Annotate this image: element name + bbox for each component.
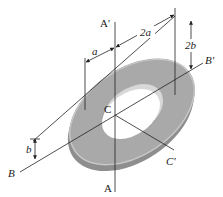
label-a-prime: A' xyxy=(100,17,110,29)
dim-2a-label: 2a xyxy=(140,26,152,38)
dim-a-line xyxy=(86,48,114,62)
label-c-prime: C' xyxy=(166,155,176,167)
dim-2b-label: 2b xyxy=(185,39,197,51)
label-a: A xyxy=(104,182,112,194)
dim-a-label: a xyxy=(92,45,98,57)
label-c: C xyxy=(104,103,111,115)
label-b-prime: B' xyxy=(205,54,215,66)
dim-b-label: b xyxy=(26,143,32,155)
elliptical-washer-diagram: A' A B B' C C' a 2a 2b b xyxy=(0,0,223,197)
label-b: B xyxy=(8,167,15,179)
